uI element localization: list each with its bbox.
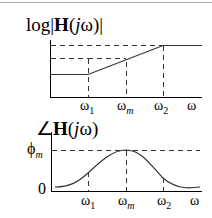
- mag-tick-omega: ω: [187, 98, 196, 114]
- phase-tick-omega-m: ωm: [118, 193, 134, 211]
- mag-tick-omega-2: ω2: [154, 98, 168, 116]
- phase-curve: [55, 150, 200, 188]
- phase-title: ∠H(jω): [36, 117, 98, 140]
- magnitude-axes: [50, 40, 202, 98]
- phase-tick-omega: ω: [190, 193, 199, 209]
- phase-dashed-guides: [52, 151, 200, 192]
- phase-tick-omega-2: ω2: [157, 193, 171, 211]
- magnitude-curve: [51, 46, 202, 75]
- mag-tick-omega-m: ωm: [117, 98, 133, 116]
- phase-tick-zero: 0: [38, 180, 46, 198]
- magnitude-dashed-guides: [51, 46, 164, 98]
- phase-tick-omega-1: ω1: [81, 193, 95, 211]
- magnitude-title: log|H(jω)|: [26, 14, 103, 36]
- mag-tick-omega-1: ω1: [80, 98, 94, 116]
- phase-tick-phi-m: ϕm: [27, 140, 43, 160]
